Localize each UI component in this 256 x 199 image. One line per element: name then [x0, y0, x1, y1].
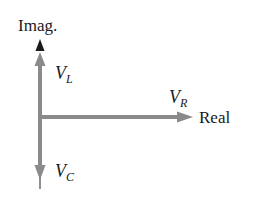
vc-phasor-arrowhead [35, 165, 46, 180]
imag-axis-arrowhead [36, 39, 45, 51]
vr-label: VR [169, 88, 187, 109]
vl-label-main: V [55, 63, 66, 83]
vl-phasor-arrowhead [35, 52, 46, 66]
vl-label: VL [55, 64, 73, 85]
vc-label-subscript: C [66, 170, 74, 184]
vl-label-subscript: L [66, 72, 73, 86]
vr-label-main: V [169, 87, 180, 107]
vr-phasor-arrowhead [177, 112, 193, 123]
vc-label-main: V [55, 161, 66, 181]
imag-axis-label: Imag. [18, 17, 57, 34]
real-axis-label: Real [199, 109, 230, 126]
vr-label-subscript: R [180, 96, 187, 110]
vc-label: VC [55, 162, 74, 183]
